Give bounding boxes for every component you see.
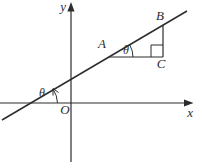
y-axis-arrowhead-icon [67, 2, 74, 12]
geometry-diagram: y x O A B C θ θ [0, 0, 202, 168]
theta-a-label: θ [123, 43, 129, 57]
point-b-label: B [156, 8, 164, 23]
x-axis-label: x [186, 105, 193, 120]
theta-origin-label: θ [39, 86, 45, 100]
point-c-label: C [157, 56, 166, 71]
angle-arc-at-a [130, 45, 133, 57]
point-a-label: A [97, 36, 106, 51]
y-axis-label: y [58, 0, 66, 14]
origin-label: O [60, 102, 70, 117]
diagram-svg: y x O A B C θ θ [0, 0, 202, 168]
